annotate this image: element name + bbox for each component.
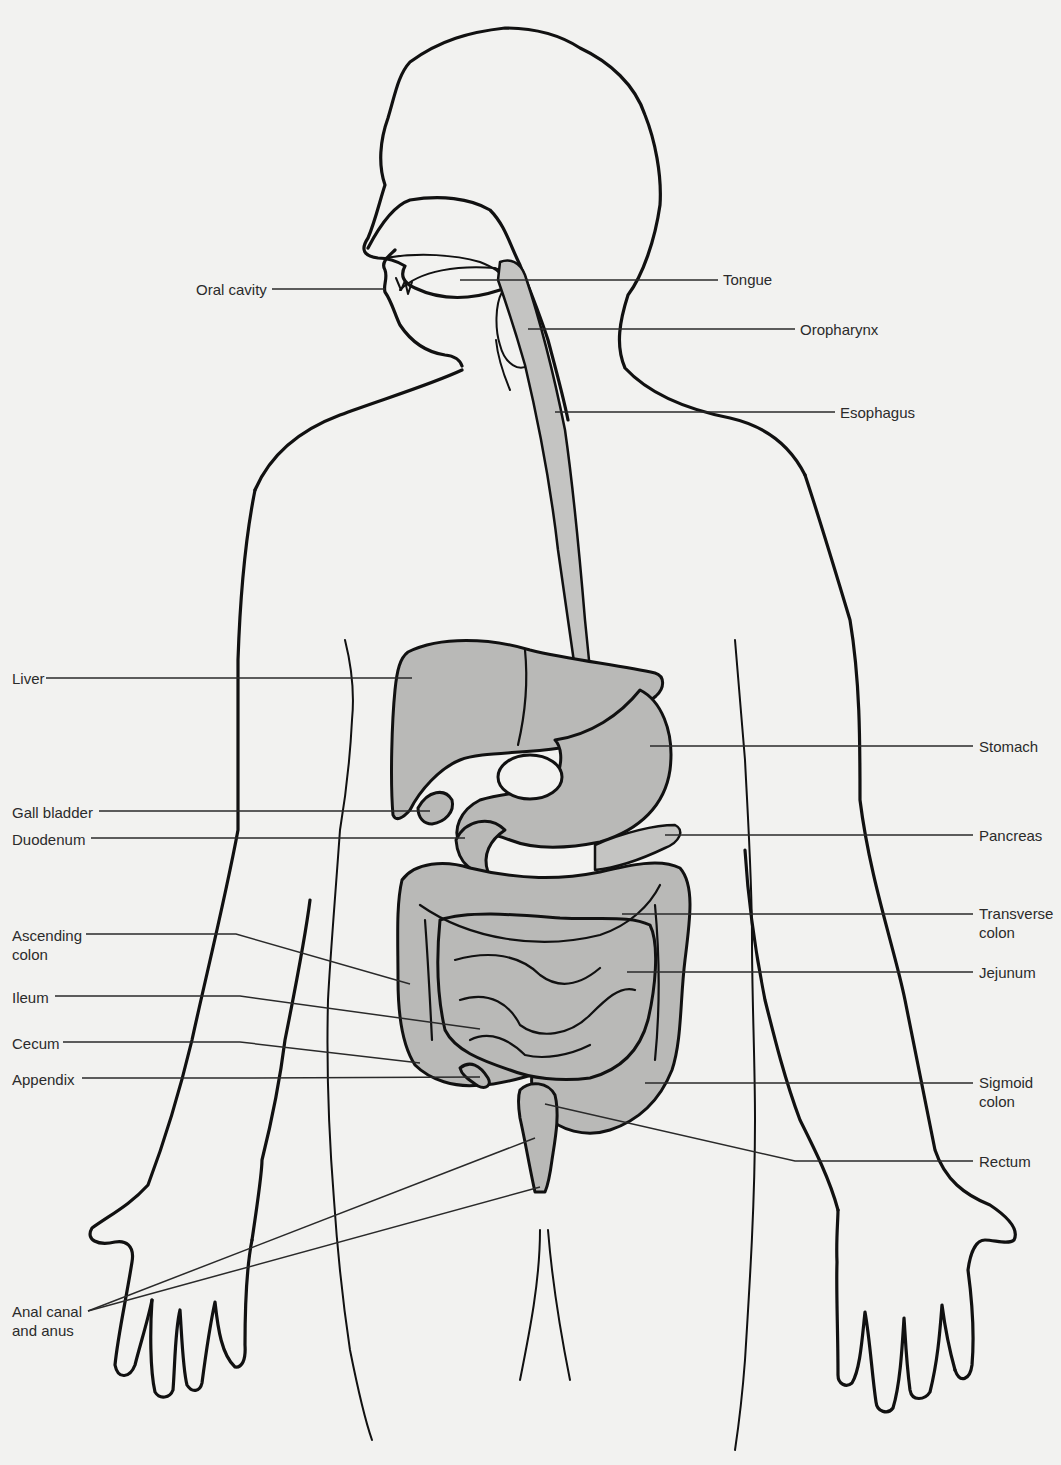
left-torso-outline	[90, 490, 255, 1376]
rectum-organ	[519, 1084, 558, 1192]
left-armpit-line	[327, 640, 372, 1440]
tongue-outline	[400, 267, 506, 290]
right-armpit-line	[735, 640, 755, 1450]
label-ascending-colon-line2: colon	[12, 946, 48, 963]
label-transverse-colon: Transverse	[979, 905, 1053, 922]
esophagus-organ	[498, 261, 592, 690]
label-esophagus: Esophagus	[840, 404, 915, 421]
trachea-line	[496, 340, 510, 390]
groin-line	[520, 1230, 570, 1380]
label-anal-canal: Anal canal	[12, 1303, 82, 1320]
label-liver: Liver	[12, 670, 45, 687]
label-oral-cavity: Oral cavity	[196, 281, 267, 298]
label-ileum: Ileum	[12, 989, 49, 1006]
label-sigmoid-colon-line2: colon	[979, 1093, 1015, 1110]
neck-front-outline	[255, 370, 462, 490]
lesser-curvature-gap	[498, 755, 562, 799]
gall-bladder-organ	[418, 792, 453, 824]
label-sigmoid-colon: Sigmoid	[979, 1074, 1033, 1091]
leader-line-anal-canal-2	[88, 1187, 540, 1311]
label-stomach: Stomach	[979, 738, 1038, 755]
digestive-system-diagram: Oral cavityTongueOropharynxEsophagusLive…	[0, 0, 1061, 1465]
left-arm-inner-outline	[252, 900, 310, 1240]
leader-line-ascending-colon	[86, 934, 410, 984]
label-ascending-colon: Ascending	[12, 927, 82, 944]
organs	[392, 261, 690, 1192]
leader-line-cecum	[63, 1042, 420, 1063]
face-outline	[384, 250, 462, 366]
left-hand-fingers	[151, 1240, 252, 1397]
label-appendix: Appendix	[12, 1071, 75, 1088]
right-arm-inner-outline	[745, 850, 838, 1210]
label-tongue: Tongue	[723, 271, 772, 288]
right-hand-fingers	[837, 1210, 955, 1412]
leader-line-appendix	[82, 1077, 480, 1078]
label-transverse-colon-line2: colon	[979, 924, 1015, 941]
label-rectum: Rectum	[979, 1153, 1031, 1170]
label-cecum: Cecum	[12, 1035, 60, 1052]
label-duodenum: Duodenum	[12, 831, 85, 848]
label-pancreas: Pancreas	[979, 827, 1042, 844]
head-outline	[364, 28, 805, 475]
label-oropharynx: Oropharynx	[800, 321, 879, 338]
label-gall-bladder: Gall bladder	[12, 804, 93, 821]
label-anal-canal-line2: and anus	[12, 1322, 74, 1339]
label-jejunum: Jejunum	[979, 964, 1036, 981]
